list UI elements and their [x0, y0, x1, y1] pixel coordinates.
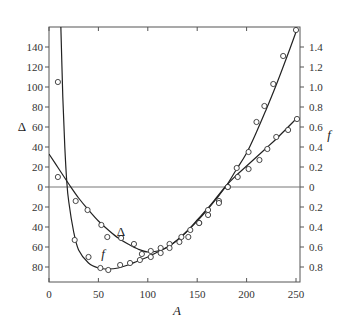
y-tick-label-right: 0.2 [309, 201, 323, 213]
y-tick-label-left: 20 [32, 201, 44, 213]
y-tick-label-right: 0 [309, 181, 315, 193]
y-tick-label-right: 1.2 [309, 61, 323, 73]
delta-data-point [257, 157, 262, 162]
right-axis-title: f [327, 127, 333, 142]
delta-data-point [55, 174, 60, 179]
f-data-point [86, 254, 91, 259]
delta-data-point [188, 227, 193, 232]
f-data-point [197, 220, 202, 225]
delta-data-point [158, 245, 163, 250]
y-tick-label-left: 60 [32, 121, 44, 133]
axis-ticks: 0501001502002501401201008060402002040608… [27, 27, 324, 300]
y-tick-label-right: 0.4 [309, 221, 323, 233]
y-tick-label-right: 0.2 [309, 161, 323, 173]
fitted-curves [49, 27, 296, 269]
delta-data-point [148, 248, 153, 253]
x-tick-label: 50 [93, 288, 105, 300]
f-data-point [293, 27, 298, 32]
y-tick-label-right: 1.4 [309, 41, 323, 53]
y-tick-label-left: 100 [27, 81, 44, 93]
y-tick-label-right: 0.6 [309, 121, 323, 133]
f-data-point [72, 237, 77, 242]
delta-data-point [105, 234, 110, 239]
f-data-point [246, 149, 251, 154]
y-tick-label-left: 0 [38, 181, 44, 193]
y-tick-label-right: 0.4 [309, 141, 323, 153]
f-data-point [186, 234, 191, 239]
f-data-point [216, 200, 221, 205]
chart: 0501001502002501401201008060402002040608… [0, 0, 348, 331]
delta-data-point [179, 234, 184, 239]
y-tick-label-right: 0.8 [309, 101, 323, 113]
f-data-point [177, 239, 182, 244]
delta-data-point [205, 212, 210, 217]
f-data-point [271, 81, 276, 86]
delta-data-point [265, 146, 270, 151]
y-tick-label-left: 40 [32, 221, 44, 233]
delta-data-point [99, 222, 104, 227]
delta-data-point [235, 174, 240, 179]
f-data-point [118, 262, 123, 267]
f-data-point [281, 53, 286, 58]
x-tick-label: 100 [140, 288, 157, 300]
f-data-point [225, 184, 230, 189]
f-data-point [262, 103, 267, 108]
f-data-point [106, 267, 111, 272]
y-tick-label-left: 80 [32, 101, 44, 113]
delta-curve [49, 119, 296, 252]
x-tick-label: 200 [238, 288, 255, 300]
delta-data-point [285, 127, 290, 132]
left-axis-title: Δ [18, 119, 26, 134]
f-data-point [167, 245, 172, 250]
delta-data-point [246, 166, 251, 171]
f-data-point [254, 119, 259, 124]
x-tick-label: 150 [189, 288, 206, 300]
plot-frame [49, 27, 300, 282]
y-tick-label-right: 0.6 [309, 241, 323, 253]
y-tick-label-right: 0.8 [309, 261, 323, 273]
x-tick-label: 250 [288, 288, 305, 300]
f-curve [61, 27, 296, 269]
f-data-point [55, 79, 60, 84]
y-tick-label-left: 140 [27, 41, 44, 53]
y-tick-label-right: 1.0 [309, 81, 323, 93]
y-tick-label-left: 60 [32, 241, 44, 253]
delta-data-point [131, 241, 136, 246]
f-data-point [205, 207, 210, 212]
f-data-point [98, 265, 103, 270]
plot-border [49, 27, 300, 282]
delta-curve-label: Δ [117, 224, 125, 239]
y-tick-label-left: 20 [32, 161, 44, 173]
delta-data-point [73, 198, 78, 203]
x-axis-title: A [172, 303, 181, 318]
f-data-point [234, 165, 239, 170]
f-data-point [148, 254, 153, 259]
f-data-point [158, 250, 163, 255]
y-tick-label-left: 40 [32, 141, 44, 153]
x-tick-label: 0 [46, 288, 52, 300]
f-curve-label: f [101, 246, 107, 261]
delta-data-point [85, 207, 90, 212]
y-tick-label-left: 120 [27, 61, 44, 73]
delta-data-point [294, 116, 299, 121]
y-tick-label-left: 80 [32, 261, 44, 273]
f-data-point [127, 260, 132, 265]
data-markers [55, 27, 299, 272]
delta-data-point [139, 251, 144, 256]
f-data-point [137, 257, 142, 262]
delta-data-point [274, 134, 279, 139]
